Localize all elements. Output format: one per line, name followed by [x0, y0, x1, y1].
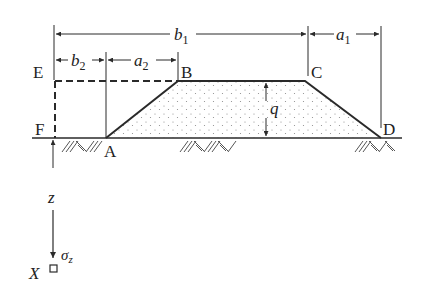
label-E: E — [33, 63, 43, 82]
label-B: B — [181, 63, 192, 82]
label-q: q — [270, 99, 279, 118]
label-z: z — [47, 188, 55, 207]
ground-hatch-right — [355, 141, 395, 152]
label-X: X — [28, 264, 40, 283]
label-F: F — [35, 120, 44, 139]
label-b1: b1 — [174, 25, 189, 47]
ground-hatch-left — [62, 141, 102, 152]
embankment-load-diagram: b1 a1 b2 a2 q E F A B C D — [0, 0, 422, 299]
label-a1: a1 — [336, 25, 351, 47]
point-X-element — [50, 265, 57, 272]
label-D: D — [383, 120, 395, 139]
embankment-fill — [106, 81, 381, 138]
label-C: C — [311, 63, 322, 82]
label-a2: a2 — [134, 51, 149, 73]
label-A: A — [104, 142, 117, 161]
label-sigma-z: σz — [61, 247, 73, 265]
label-b2: b2 — [71, 51, 86, 73]
ground-hatch-middle — [180, 141, 236, 152]
